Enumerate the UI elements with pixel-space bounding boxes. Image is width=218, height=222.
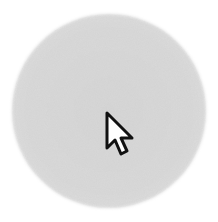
arrow-pointer-icon <box>104 110 134 160</box>
screen-canvas <box>0 0 218 222</box>
